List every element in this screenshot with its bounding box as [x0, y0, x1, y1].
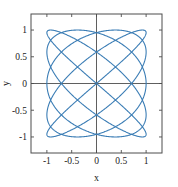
x-tick-label: -1 — [43, 156, 51, 166]
y-tick-label: 1 — [22, 25, 27, 35]
y-tick-labels: -1-0.500.51 — [12, 25, 27, 142]
y-tick-label: 0 — [22, 79, 27, 89]
x-tick-label: -0.5 — [64, 156, 79, 166]
x-tick-label: 0 — [94, 156, 99, 166]
lissajous-chart: -1-0.500.51 -1-0.500.51 x y — [0, 0, 178, 187]
x-tick-labels: -1-0.500.51 — [43, 156, 149, 166]
y-tick-label: 0.5 — [15, 52, 27, 62]
x-tick-label: 1 — [144, 156, 149, 166]
y-axis-label: y — [0, 81, 11, 86]
figure-container: -1-0.500.51 -1-0.500.51 x y — [0, 0, 178, 187]
x-axis-label: x — [94, 172, 99, 183]
y-tick-label: -0.5 — [12, 106, 27, 116]
x-tick-label: 0.5 — [115, 156, 127, 166]
y-tick-label: -1 — [19, 132, 27, 142]
